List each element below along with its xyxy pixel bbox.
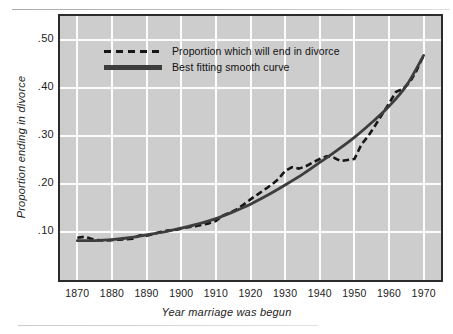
legend-item-smooth-curve: Best fitting smooth curve <box>102 59 340 75</box>
series-line-proportion <box>77 55 423 240</box>
plot-area: Proportion which will end in divorce Bes… <box>58 14 443 282</box>
scan-rule-bottom <box>18 325 318 326</box>
y-tick-.10: .10 <box>6 224 54 236</box>
y-tick-.20: .20 <box>6 176 54 188</box>
x-tick-1920: 1920 <box>238 287 262 299</box>
solid-line-key-icon <box>102 59 164 75</box>
y-tick-labels: .10.20.30.40.50 <box>0 0 54 334</box>
x-tick-1930: 1930 <box>273 287 297 299</box>
legend-label-proportion: Proportion which will end in divorce <box>172 45 340 57</box>
x-tick-1950: 1950 <box>342 287 366 299</box>
x-tick-1880: 1880 <box>100 287 124 299</box>
x-axis-title: Year marriage was begun <box>0 306 453 318</box>
y-tick-.30: .30 <box>6 128 54 140</box>
scan-rule-top <box>12 9 450 10</box>
y-tick-.40: .40 <box>6 80 54 92</box>
legend-item-proportion: Proportion which will end in divorce <box>102 43 340 59</box>
series-line-smooth-curve <box>77 55 423 240</box>
x-tick-labels: 1870188018901900191019201930194019501960… <box>0 287 453 305</box>
x-tick-1900: 1900 <box>169 287 193 299</box>
legend-label-smooth-curve: Best fitting smooth curve <box>172 61 289 73</box>
y-axis-title: Proportion ending in divorce <box>15 22 27 272</box>
legend: Proportion which will end in divorce Bes… <box>102 43 340 75</box>
divorce-proportion-figure: .10.20.30.40.50 Proportion ending in div… <box>0 0 453 334</box>
x-tick-1960: 1960 <box>377 287 401 299</box>
dashed-line-key-icon <box>102 43 164 59</box>
x-tick-1910: 1910 <box>204 287 228 299</box>
x-tick-1970: 1970 <box>412 287 436 299</box>
x-tick-1870: 1870 <box>65 287 89 299</box>
x-tick-1940: 1940 <box>308 287 332 299</box>
x-tick-1890: 1890 <box>134 287 158 299</box>
y-tick-.50: .50 <box>6 32 54 44</box>
